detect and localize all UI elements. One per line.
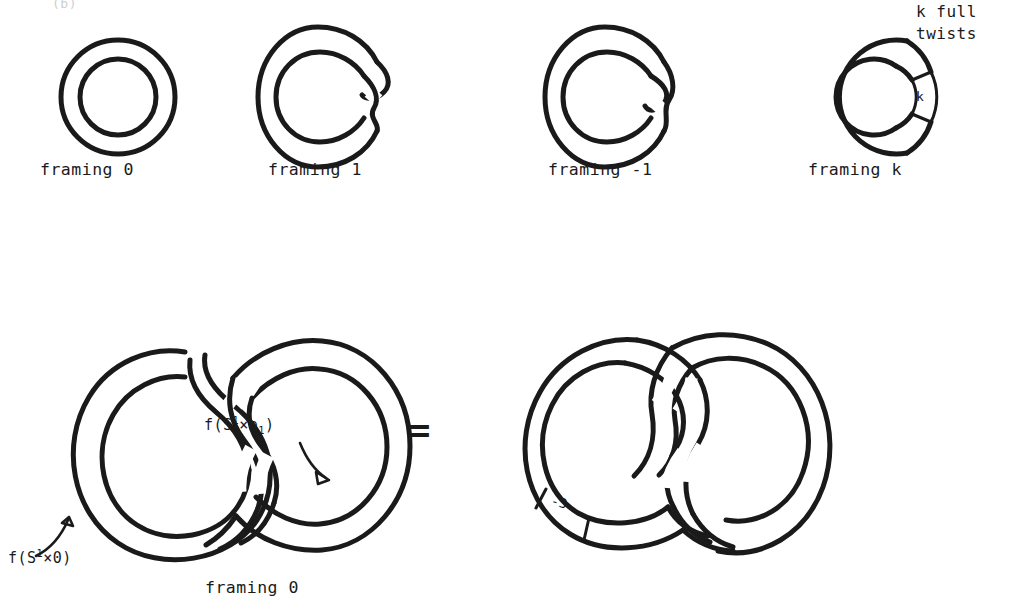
label-section-sub: 1 [258,425,265,436]
label-section-post: ) [265,416,275,434]
label-core-fs1x0: f(S1×0) [8,548,72,567]
diagram-framing-0 [61,40,175,154]
partial-top-text: (b) [52,0,77,11]
equals-sign: = [404,410,433,450]
label-core-pre: f(S [8,549,37,567]
caption-framing-k: framing k [808,160,902,179]
label-section-pre: f(S [204,416,233,434]
caption-framing-minus-1: framing -1 [548,160,652,179]
annotation-twists: twists [916,24,977,44]
caption-framing-1: framing 1 [268,160,362,179]
framing-figure: .ink{fill:none;stroke:#1a1a1a;stroke-wid… [0,0,1023,616]
label-section-fs1xe1: f(S1×e1) [204,415,274,436]
label-core-mid: ×0) [43,549,72,567]
diagram-hopf-framing-0 [73,341,410,560]
diagram-framing-1 [258,27,388,167]
caption-framing-0: framing 0 [40,160,134,179]
caption-bottom-framing-0: framing 0 [205,578,299,597]
diagram-hopf-minus-3 [525,335,830,553]
label-section-mid: ×e [239,416,258,434]
annotation-k-full: k full [916,2,977,22]
arrow-section-label [300,443,329,484]
diagram-framing-minus-1 [545,27,673,167]
box-label-k: k [916,89,924,104]
